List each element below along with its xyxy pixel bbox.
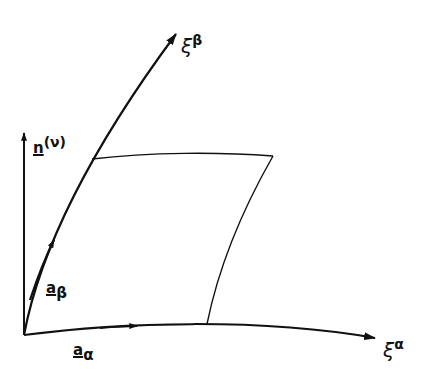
xi-alpha-axis-curve <box>24 324 375 338</box>
normal-label: n(ν) <box>33 140 66 156</box>
diagram-canvas <box>0 0 435 376</box>
a-alpha-label: aα <box>73 342 93 358</box>
patch-right-edge <box>207 156 273 324</box>
patch-upper-edge <box>92 153 273 159</box>
xi-beta-label: ξβ <box>181 36 202 56</box>
xi-alpha-label: ξα <box>383 340 404 360</box>
a-beta-label: aβ <box>46 280 67 296</box>
